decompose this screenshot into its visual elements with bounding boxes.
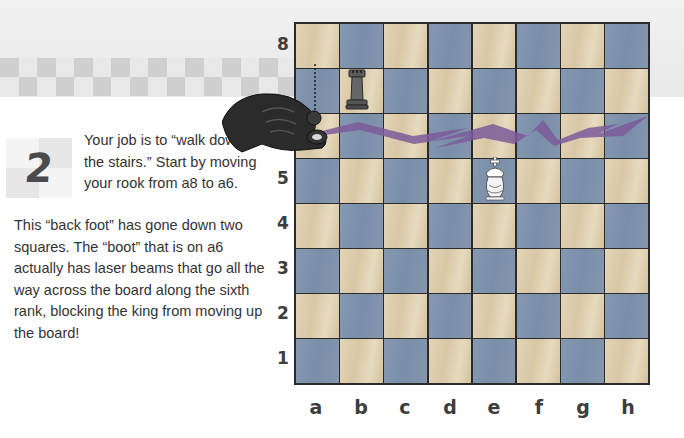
file-label-g: g bbox=[561, 396, 605, 418]
square-g3 bbox=[561, 249, 604, 293]
square-f3 bbox=[517, 249, 560, 293]
square-d3 bbox=[429, 249, 472, 293]
square-d5 bbox=[429, 159, 472, 203]
square-f4 bbox=[517, 204, 560, 248]
square-b3 bbox=[340, 249, 383, 293]
square-a2 bbox=[296, 294, 339, 338]
square-f7 bbox=[517, 69, 560, 113]
square-d1 bbox=[429, 339, 472, 383]
square-a5 bbox=[296, 159, 339, 203]
square-d4 bbox=[429, 204, 472, 248]
square-a4 bbox=[296, 204, 339, 248]
file-label-b: b bbox=[339, 396, 383, 418]
square-f5 bbox=[517, 159, 560, 203]
square-c5 bbox=[384, 159, 427, 203]
square-h7 bbox=[605, 69, 648, 113]
square-g7 bbox=[561, 69, 604, 113]
rank-label-2: 2 bbox=[274, 303, 292, 323]
hand-holding-rook-icon bbox=[222, 82, 340, 162]
laser-beam-icon bbox=[318, 110, 648, 148]
square-e4 bbox=[473, 204, 516, 248]
square-h4 bbox=[605, 204, 648, 248]
square-h8 bbox=[605, 24, 648, 68]
square-b4 bbox=[340, 204, 383, 248]
square-f2 bbox=[517, 294, 560, 338]
square-e2 bbox=[473, 294, 516, 338]
square-a3 bbox=[296, 249, 339, 293]
square-a1 bbox=[296, 339, 339, 383]
file-label-c: c bbox=[383, 396, 427, 418]
file-label-h: h bbox=[606, 396, 650, 418]
step-number: 2 bbox=[3, 138, 75, 198]
square-b8 bbox=[340, 24, 383, 68]
square-c2 bbox=[384, 294, 427, 338]
square-g4 bbox=[561, 204, 604, 248]
square-c7 bbox=[384, 69, 427, 113]
square-b2 bbox=[340, 294, 383, 338]
square-g5 bbox=[561, 159, 604, 203]
square-a8 bbox=[296, 24, 339, 68]
file-label-e: e bbox=[472, 396, 516, 418]
square-f8 bbox=[517, 24, 560, 68]
square-c3 bbox=[384, 249, 427, 293]
square-h1 bbox=[605, 339, 648, 383]
square-d2 bbox=[429, 294, 472, 338]
square-e7 bbox=[473, 69, 516, 113]
step-body-text: This “back foot” has gone down two squar… bbox=[14, 215, 269, 344]
square-g1 bbox=[561, 339, 604, 383]
square-e8 bbox=[473, 24, 516, 68]
square-e1 bbox=[473, 339, 516, 383]
square-h2 bbox=[605, 294, 648, 338]
square-e3 bbox=[473, 249, 516, 293]
rank-label-4: 4 bbox=[274, 213, 292, 233]
rank-label-8: 8 bbox=[274, 34, 292, 54]
square-c1 bbox=[384, 339, 427, 383]
black-rook-icon bbox=[344, 68, 370, 110]
square-d8 bbox=[429, 24, 472, 68]
square-h5 bbox=[605, 159, 648, 203]
rank-label-5: 5 bbox=[274, 168, 292, 188]
square-g8 bbox=[561, 24, 604, 68]
square-h3 bbox=[605, 249, 648, 293]
file-label-a: a bbox=[294, 396, 338, 418]
square-d7 bbox=[429, 69, 472, 113]
square-b5 bbox=[340, 159, 383, 203]
square-c4 bbox=[384, 204, 427, 248]
file-label-d: d bbox=[428, 396, 472, 418]
file-label-f: f bbox=[517, 396, 561, 418]
square-c8 bbox=[384, 24, 427, 68]
square-g2 bbox=[561, 294, 604, 338]
rank-label-1: 1 bbox=[274, 348, 292, 368]
white-king-icon bbox=[480, 157, 510, 201]
square-b1 bbox=[340, 339, 383, 383]
square-f1 bbox=[517, 339, 560, 383]
rank-label-3: 3 bbox=[274, 258, 292, 278]
